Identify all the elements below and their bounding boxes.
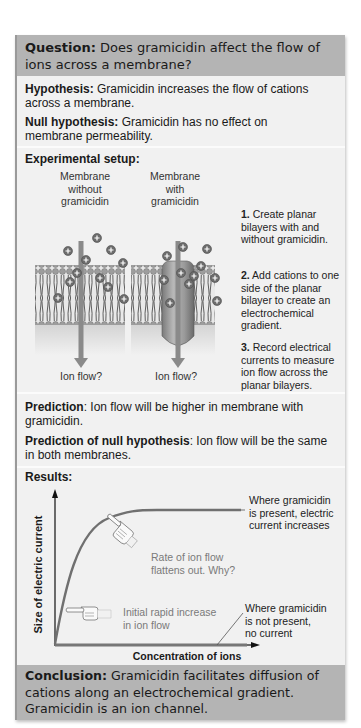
ion-flow-right-label: Ion flow? [140,370,212,383]
conclusion-text: Conclusion: Gramicidin facilitates diffu… [25,668,343,718]
annotation-flattens: Rate of ion flow flattens out. Why? [151,551,261,576]
hypothesis-label: Hypothesis: [25,82,94,96]
experiment-card: Question: Does gramicidin affect the flo… [15,35,345,720]
null-hypothesis-text: Null hypothesis: Gramicidin has no effec… [25,115,325,143]
step-2: 2. Add cations to one side of the planar… [241,269,343,332]
question-text: Question: Does gramicidin affect the flo… [25,39,335,73]
question-label: Question: [25,40,96,55]
membrane-with-gramicidin [131,261,215,355]
step-1: 1. Create planar bilayers with and witho… [241,208,343,246]
annotation-initial-increase: Initial rapid increase in ion flow [123,606,243,631]
results-section: Results: [17,468,345,665]
y-axis [52,489,58,646]
hypothesis-section: Hypothesis: Gramicidin increases the flo… [17,76,345,114]
x-axis-label: Concentration of ions [117,650,257,663]
question-section: Question: Does gramicidin affect the flo… [17,35,345,76]
y-axis-label: Size of electric current [32,505,45,645]
step-3: 3. Record electrical currents to measure… [241,341,343,391]
hypothesis-text: Hypothesis: Gramicidin increases the flo… [25,82,325,110]
conclusion-section: Conclusion: Gramicidin facilitates diffu… [17,665,345,720]
null-hypothesis-section: Null hypothesis: Gramicidin has no effec… [17,114,345,147]
experimental-setup-section: Experimental setup: Membrane without gra… [17,148,345,392]
prediction-null-label: Prediction of null hypothesis [25,434,190,448]
x-axis [55,642,260,648]
pointing-hand-icon [66,607,111,620]
prediction-section: Prediction: Ion flow will be higher in m… [17,394,345,466]
prediction-label: Prediction [25,400,84,414]
conclusion-label: Conclusion: [25,668,107,683]
ion-flow-left-label: Ion flow? [45,370,117,383]
null-hypothesis-label: Null hypothesis: [25,115,118,129]
prediction-null-text: Prediction of null hypothesis: Ion flow … [25,434,335,462]
membrane-illustration [17,148,232,392]
prediction-text: Prediction: Ion flow will be higher in m… [25,400,330,428]
annotation-gramicidin-absent: Where gramicidin is not present, no curr… [245,602,345,640]
annotation-gramicidin-present: Where gramicidin is present, electric cu… [249,494,349,532]
